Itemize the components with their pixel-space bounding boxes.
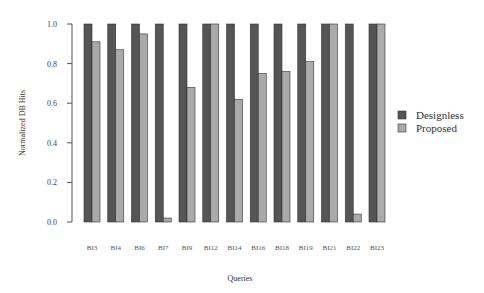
bar-proposed-bi7 [163, 218, 171, 222]
legend-label-proposed: Proposed [416, 122, 457, 134]
x-tick-label: BI21 [323, 244, 338, 252]
x-tick-label: BI18 [275, 244, 290, 252]
bar-designless-bi4 [108, 24, 116, 222]
x-tick-label: BI22 [346, 244, 361, 252]
bar-designless-bi6 [132, 24, 140, 222]
bars [84, 24, 385, 222]
x-tick-label: BI6 [134, 244, 145, 252]
bar-proposed-bi19 [306, 62, 314, 222]
y-tick-label: 0.6 [47, 99, 57, 108]
y-tick-label: 1.0 [47, 20, 57, 29]
bar-designless-bi14 [227, 24, 235, 222]
bar-chart: 0.00.20.40.60.81.0 BI3BI4BI6BI7BI9BI12BI… [0, 0, 484, 293]
x-tick-label: BI12 [204, 244, 219, 252]
y-tick-label: 0.0 [47, 218, 57, 227]
y-tick-label: 0.8 [47, 60, 57, 69]
bar-designless-bi19 [298, 24, 306, 222]
x-tick-label: BI4 [111, 244, 122, 252]
x-tick-label: BI3 [87, 244, 98, 252]
legend-label-designless: Designless [416, 109, 464, 121]
bar-proposed-bi9 [187, 87, 195, 222]
y-tick-label: 0.2 [47, 178, 57, 187]
x-tick-label: BI7 [158, 244, 169, 252]
x-tick-label: BI14 [228, 244, 243, 252]
bar-proposed-bi18 [282, 72, 290, 222]
bar-designless-bi23 [369, 24, 377, 222]
y-axis: 0.00.20.40.60.81.0 [47, 20, 72, 227]
bar-proposed-bi23 [377, 24, 385, 222]
bar-designless-bi18 [274, 24, 282, 222]
x-tick-label: BI23 [370, 244, 385, 252]
bar-designless-bi16 [250, 24, 258, 222]
legend-swatch-proposed [398, 124, 406, 132]
bar-proposed-bi12 [211, 24, 219, 222]
bar-proposed-bi3 [92, 42, 100, 222]
bar-designless-bi21 [322, 24, 330, 222]
bar-designless-bi3 [84, 24, 92, 222]
bar-proposed-bi16 [258, 74, 266, 223]
bar-proposed-bi4 [116, 50, 124, 222]
bar-designless-bi22 [345, 24, 353, 222]
bar-designless-bi7 [155, 24, 163, 222]
bar-designless-bi9 [179, 24, 187, 222]
bar-proposed-bi22 [353, 214, 361, 222]
y-tick-label: 0.4 [47, 139, 57, 148]
x-tick-label: BI16 [251, 244, 266, 252]
bar-proposed-bi6 [140, 34, 148, 222]
x-tick-label: BI19 [299, 244, 314, 252]
bar-proposed-bi21 [330, 24, 338, 222]
legend-swatch-designless [398, 111, 406, 119]
x-axis-title: Queries [228, 274, 253, 283]
bar-proposed-bi14 [235, 99, 243, 222]
bar-designless-bi12 [203, 24, 211, 222]
x-axis-labels: BI3BI4BI6BI7BI9BI12BI14BI16BI18BI19BI21B… [87, 244, 385, 252]
y-axis-title: Normalized DB Hits [18, 90, 27, 156]
legend: DesignlessProposed [398, 109, 464, 134]
x-tick-label: BI9 [182, 244, 193, 252]
